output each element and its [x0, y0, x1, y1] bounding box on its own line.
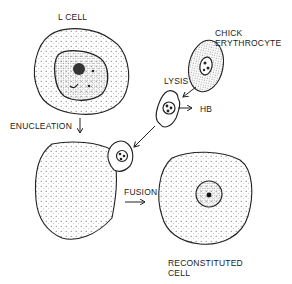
label-hb: HB — [200, 104, 212, 114]
ghost-to-cytoplast-arrow — [134, 126, 155, 147]
label-fusion: FUSION — [124, 187, 157, 197]
label-l-cell: L CELL — [58, 12, 87, 22]
label-enucleation: ENUCLEATION — [10, 121, 72, 131]
l-cell-nucleus — [55, 51, 108, 101]
label-erythrocyte: ERYTHROCYTE — [215, 38, 281, 48]
l-cell-nucleolus — [73, 63, 85, 75]
lysis-arrow — [183, 87, 196, 97]
label-cell: CELL — [168, 268, 190, 278]
label-chick: CHICK — [215, 28, 242, 38]
erythrocyte-ghost — [156, 91, 180, 127]
cytoplast — [36, 142, 117, 239]
l-cell — [34, 29, 128, 115]
attached-ghost — [108, 141, 133, 171]
label-lysis: LYSIS — [164, 76, 188, 86]
label-reconstituted: RECONSTITUTED — [168, 258, 243, 268]
reconstituted-cell — [159, 152, 252, 244]
